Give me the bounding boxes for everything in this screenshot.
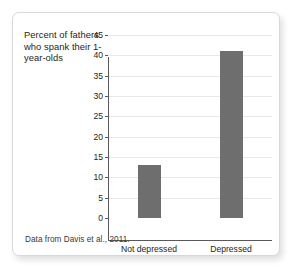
y-axis-tick-label: 10 — [73, 173, 103, 182]
y-axis-tick-label: 45 — [73, 31, 103, 40]
figure-frame: Percent of fathers who spank their 1-yea… — [12, 12, 280, 256]
y-axis-tick-labels: 051015202530354045 — [69, 35, 103, 218]
x-axis-tick-label: Depressed — [181, 245, 281, 254]
y-axis-tick-label: 40 — [73, 51, 103, 60]
y-axis-tick-label: 15 — [73, 153, 103, 162]
y-axis-tick-label: 5 — [73, 194, 103, 203]
y-axis-tick-label: 25 — [73, 112, 103, 121]
bar[interactable] — [138, 165, 161, 218]
y-axis-tick-label: 20 — [73, 133, 103, 142]
source-note: Data from Davis et al., 2011. — [25, 235, 130, 244]
y-axis-tick-label: 30 — [73, 92, 103, 101]
gridline — [108, 218, 272, 219]
y-axis-tick — [105, 218, 109, 219]
x-axis-line — [108, 240, 272, 241]
x-axis-tick-labels: Not depressedDepressed — [108, 35, 272, 75]
y-axis-tick-label: 35 — [73, 72, 103, 81]
bar[interactable] — [220, 51, 243, 218]
y-axis-tick-label: 0 — [73, 214, 103, 223]
